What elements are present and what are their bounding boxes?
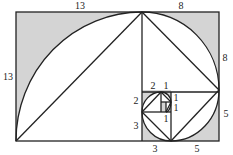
- label-inner-1-top: 1: [164, 80, 169, 91]
- label-inner-1-right-b: 1: [174, 102, 179, 113]
- label-bottom-5: 5: [195, 143, 200, 154]
- label-right-5: 5: [224, 108, 229, 119]
- label-inner-2-left: 2: [134, 95, 139, 106]
- label-left-13: 13: [3, 71, 13, 82]
- label-inner-1-bottom: 1: [164, 113, 169, 124]
- label-inner-2-top: 2: [151, 80, 156, 91]
- label-right-8: 8: [223, 52, 228, 63]
- label-bottom-3: 3: [153, 143, 158, 154]
- golden-spiral-diagram: 13 8 13 8 5 3 5 2 1 2 3 1 1 1: [0, 0, 233, 155]
- label-inner-3-left: 3: [134, 120, 139, 131]
- label-top-13: 13: [75, 0, 85, 11]
- label-top-8: 8: [179, 0, 184, 11]
